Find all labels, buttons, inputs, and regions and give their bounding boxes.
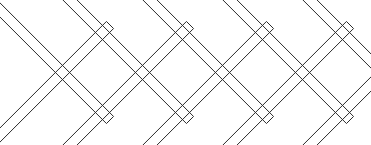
lattice-diagram [0,0,371,145]
lattice-figure [0,0,371,145]
